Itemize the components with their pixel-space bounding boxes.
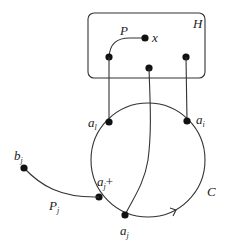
diagram-canvas: H P x C al ai aj+ aj bj Pj (0, 0, 225, 250)
vertex-x (141, 34, 148, 41)
vertex-a-j (121, 211, 128, 218)
path-p-label: P (119, 23, 128, 38)
cycle-c-label: C (207, 184, 216, 199)
label-a-i: ai (196, 112, 205, 129)
vertex-x-label: x (151, 30, 158, 45)
path-p-j (24, 168, 99, 197)
vertex-b-j (20, 164, 27, 171)
label-a-j: aj (120, 223, 130, 240)
edge-to-a-j (125, 68, 150, 215)
label-p-j: Pj (48, 198, 60, 215)
label-b-j: bj (14, 148, 24, 165)
label-a-j-plus: aj+ (97, 174, 113, 191)
vertex-a-i (183, 117, 190, 124)
edge-to-a-i (186, 57, 187, 121)
path-p (109, 38, 145, 57)
box-label-h: H (192, 16, 203, 31)
vertex-a-l (105, 118, 112, 125)
label-a-l: al (88, 115, 98, 132)
